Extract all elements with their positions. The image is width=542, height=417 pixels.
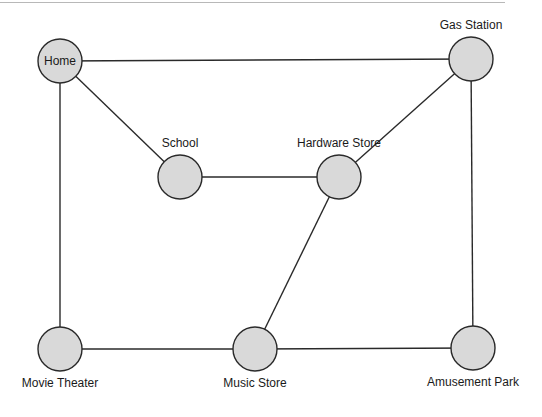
node-amusement: Amusement Park [427, 326, 520, 389]
node-circle [38, 327, 82, 371]
node-hardware: Hardware Store [297, 136, 381, 199]
graph-diagram: HomeSchoolHardware StoreGas StationMovie… [0, 0, 542, 417]
node-circle [451, 326, 495, 370]
node-label: Music Store [223, 376, 287, 390]
node-circle [233, 327, 277, 371]
node-movie: Movie Theater [22, 327, 98, 390]
node-circle [449, 37, 493, 81]
node-circle [317, 155, 361, 199]
edges [60, 59, 473, 349]
node-label: Gas Station [440, 18, 503, 32]
edge-home-school [60, 61, 180, 177]
node-label: Hardware Store [297, 136, 381, 150]
edge-gas-amusement [471, 59, 473, 348]
edge-home-gas [60, 59, 471, 61]
edge-hardware-gas [339, 59, 471, 177]
node-label: Home [44, 54, 76, 68]
edge-music-amusement [255, 348, 473, 349]
node-label: Movie Theater [22, 376, 98, 390]
edge-hardware-music [255, 177, 339, 349]
node-home: Home [38, 39, 82, 83]
node-school: School [158, 136, 202, 199]
node-music: Music Store [223, 327, 287, 390]
node-label: Amusement Park [427, 375, 520, 389]
node-gas: Gas Station [440, 18, 503, 81]
nodes: HomeSchoolHardware StoreGas StationMovie… [22, 18, 520, 390]
node-label: School [162, 136, 199, 150]
node-circle [158, 155, 202, 199]
